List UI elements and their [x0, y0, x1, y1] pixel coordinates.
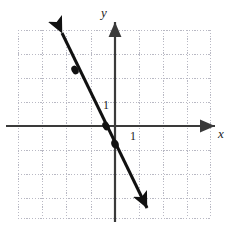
coordinate-plane-figure: y x 1 1 [0, 0, 230, 230]
y-axis-label: y [101, 6, 107, 19]
x-axis-label: x [218, 127, 224, 140]
x-axis-tick-label-one: 1 [130, 130, 136, 142]
plotted-line [62, 33, 147, 208]
y-axis-tick-label-one: 1 [103, 99, 109, 111]
plot-canvas [0, 0, 230, 230]
